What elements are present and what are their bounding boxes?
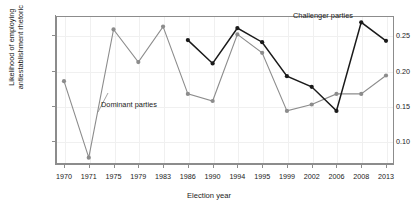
x-axis-tick — [237, 164, 238, 168]
y-axis-title: Likelihood of employing antiestablishmen… — [7, 0, 25, 127]
gridline-vertical — [288, 17, 289, 163]
x-axis-tick — [114, 164, 115, 168]
x-axis-tick — [138, 164, 139, 168]
gridline-horizontal — [57, 142, 393, 143]
gridline-vertical — [115, 17, 116, 163]
x-axis-title: Election year — [0, 191, 418, 200]
plot-panel — [56, 16, 394, 164]
x-axis-tick — [163, 164, 164, 168]
annotation-challenger-parties: Challenger parties — [293, 11, 353, 20]
gridline-vertical — [164, 17, 165, 163]
y-axis-title-line2: antiestablishment rhetoric — [16, 0, 25, 127]
gridline-vertical — [189, 17, 190, 163]
y-axis-tick-label: 0.25 — [370, 31, 410, 40]
gridline-vertical — [90, 17, 91, 163]
x-axis-tick — [312, 164, 313, 168]
plot-gridlines — [57, 17, 393, 163]
annotation-dominant-parties: Dominant parties — [101, 100, 157, 109]
gridline-horizontal — [57, 72, 393, 73]
x-axis-tick — [361, 164, 362, 168]
x-axis-tick-label: 2013 — [366, 172, 406, 181]
x-axis-spine — [56, 164, 394, 165]
x-axis-tick — [188, 164, 189, 168]
gridline-vertical — [263, 17, 264, 163]
x-axis-tick — [287, 164, 288, 168]
y-axis-title-line1: Likelihood of employing — [7, 0, 16, 127]
x-axis-tick — [336, 164, 337, 168]
x-axis-tick — [64, 164, 65, 168]
gridline-vertical — [238, 17, 239, 163]
x-axis-tick — [213, 164, 214, 168]
gridline-vertical — [139, 17, 140, 163]
y-axis-tick-label: 0.15 — [370, 102, 410, 111]
gridline-vertical — [65, 17, 66, 163]
chart-figure: Likelihood of employing antiestablishmen… — [0, 0, 418, 210]
gridline-vertical — [362, 17, 363, 163]
x-axis-tick — [262, 164, 263, 168]
x-axis-tick — [89, 164, 90, 168]
y-axis-tick-label: 0.10 — [370, 137, 410, 146]
x-axis-tick — [386, 164, 387, 168]
gridline-vertical — [313, 17, 314, 163]
x-axis — [56, 164, 394, 170]
gridline-horizontal — [57, 36, 393, 37]
y-axis-tick-label: 0.20 — [370, 67, 410, 76]
gridline-vertical — [337, 17, 338, 163]
gridline-vertical — [214, 17, 215, 163]
